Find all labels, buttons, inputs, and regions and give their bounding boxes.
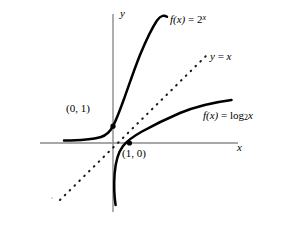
marker-point-0-1 (110, 124, 115, 129)
point-label-1-0: (1, 0) (122, 148, 146, 159)
marker-point-1-0 (127, 140, 132, 145)
line-label-equals: = (215, 50, 227, 62)
axis-x-label: x (237, 142, 242, 153)
exp-label-fx: f(x) (170, 13, 185, 25)
axis-y-label: y (120, 8, 125, 19)
log-label-equals: = (218, 109, 230, 121)
curve-label-identity-line: y = x (210, 51, 232, 62)
curve-label-exponential: f(x) = 2x (170, 14, 206, 25)
line-label-x: x (227, 50, 232, 62)
log-label-argument: x (248, 109, 253, 121)
curve-exponential (64, 16, 167, 141)
log-label-log: log (230, 109, 244, 121)
exp-label-equals: = (185, 13, 197, 25)
scan-speck (51, 197, 53, 199)
identity-line-y-equals-x (60, 55, 207, 200)
curve-label-logarithm: f(x) = log2x (203, 110, 253, 122)
log-label-fx: f(x) (203, 109, 218, 121)
math-figure: y x f(x) = 2x y = x f(x) = log2x (0, 1) … (0, 0, 284, 229)
point-label-0-1: (0, 1) (66, 103, 90, 114)
exp-label-exponent: x (202, 13, 206, 22)
